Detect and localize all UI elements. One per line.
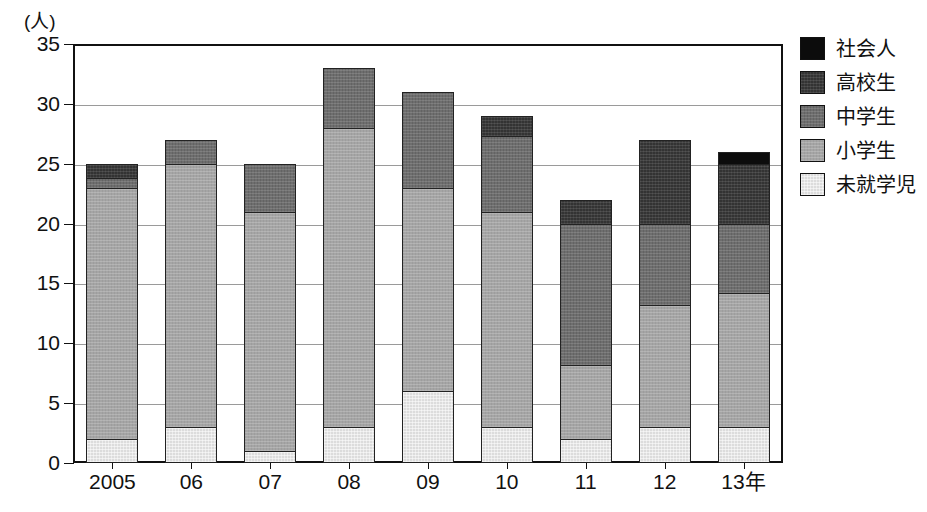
bar-segment [481,136,533,211]
x-axis-tick [586,463,587,469]
x-axis-tick [270,463,271,469]
bar-segment [86,164,138,178]
chart-canvas: (人) 05101520253035 20050607080910111213年… [0,0,927,512]
bar-segment [560,439,612,463]
x-axis-label: 2005 [72,470,152,494]
legend-item[interactable]: 社会人 [800,36,925,61]
x-axis-tick [428,463,429,469]
bar-segment [560,224,612,365]
y-axis-tick-label: 10 [14,332,60,353]
bar-10 [481,116,533,463]
legend-label: 中学生 [836,107,896,127]
y-axis-tick [64,283,74,284]
bar-segment [718,224,770,293]
bar-08 [323,68,375,463]
bar-segment [718,427,770,463]
x-axis-tick [665,463,666,469]
bar-segment [639,305,691,427]
bar-segment [639,427,691,463]
x-axis-label: 06 [151,470,231,494]
x-axis-tick [349,463,350,469]
y-axis-tick-label: 35 [14,33,60,54]
bar-segment [165,140,217,164]
bar-segment [323,427,375,463]
legend-label: 社会人 [836,39,896,59]
bar-segment [86,178,138,188]
bar-segment [244,212,296,451]
legend-swatch-icon [800,37,825,60]
bar-segment [481,116,533,136]
bar-07 [244,164,296,463]
bar-2005 [86,164,138,463]
x-axis-tick [112,463,113,469]
bar-09 [402,92,454,463]
x-axis-label: 07 [230,470,310,494]
bar-segment [402,391,454,463]
y-axis-tick [64,224,74,225]
x-axis-tick [191,463,192,469]
x-axis-tick [744,463,745,469]
bar-11 [560,200,612,463]
x-axis-label: 13年 [704,470,784,494]
y-axis-tick-label: 20 [14,213,60,234]
legend-item[interactable]: 小学生 [800,138,925,163]
bar-segment [718,293,770,427]
legend-item[interactable]: 未就学児 [800,172,925,197]
legend-label: 未就学児 [836,175,916,195]
bar-segment [244,164,296,212]
bar-segment [639,140,691,224]
x-axis-label: 09 [388,470,468,494]
bar-segment [560,365,612,439]
y-axis-tick-label: 25 [14,153,60,174]
y-axis-tick [64,104,74,105]
y-axis-tick-label: 30 [14,93,60,114]
bar-segment [481,212,533,427]
y-axis-tick [64,44,74,45]
y-axis-labels: 05101520253035 [0,0,60,512]
bar-segment [86,439,138,463]
chart-legend: 社会人高校生中学生小学生未就学児 [800,36,925,206]
bar-segment [165,164,217,427]
legend-item[interactable]: 高校生 [800,70,925,95]
bar-06 [165,140,217,463]
x-axis-labels: 20050607080910111213年 [73,470,783,504]
bar-segment [244,451,296,463]
legend-item[interactable]: 中学生 [800,104,925,129]
x-axis-label: 08 [309,470,389,494]
x-axis-tick [507,463,508,469]
x-axis-label: 11 [546,470,626,494]
y-axis-tick-label: 5 [14,392,60,413]
bar-segment [86,188,138,439]
bar-segment [481,427,533,463]
bar-segment [639,224,691,305]
bar-segment [560,200,612,224]
legend-swatch-icon [800,105,825,128]
y-axis-tick-label: 0 [14,452,60,473]
bars-layer [73,44,783,463]
bar-12 [639,140,691,463]
y-axis-tick-label: 15 [14,272,60,293]
bar-segment [402,92,454,188]
legend-swatch-icon [800,139,825,162]
legend-swatch-icon [800,71,825,94]
x-axis-label: 10 [467,470,547,494]
y-axis-tick [64,164,74,165]
x-axis-label: 12 [625,470,705,494]
bar-segment [718,164,770,224]
y-axis-tick [64,343,74,344]
legend-swatch-icon [800,173,825,196]
bar-segment [323,128,375,427]
bar-segment [402,188,454,392]
bar-segment [165,427,217,463]
legend-label: 高校生 [836,73,896,93]
legend-label: 小学生 [836,141,896,161]
bar-segment [323,68,375,128]
bar-13 [718,152,770,463]
y-axis-tick [64,403,74,404]
bar-segment [718,152,770,164]
y-axis-tick [64,463,74,464]
